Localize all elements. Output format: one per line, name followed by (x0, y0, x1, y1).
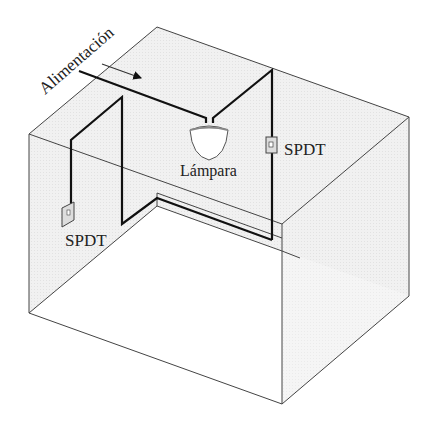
switch-left-label: SPDT (65, 231, 107, 250)
lamp-label: Lámpara (180, 162, 237, 180)
room-box (29, 27, 409, 404)
switch-right-icon (266, 137, 277, 153)
switch-right-label: SPDT (284, 140, 326, 159)
wiring-diagram: Alimentación Lámpara SPDT SPDT (0, 0, 435, 427)
